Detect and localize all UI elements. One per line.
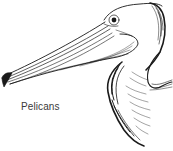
pouch bbox=[10, 34, 138, 84]
pelican-illustration bbox=[0, 0, 173, 151]
caption: Pelicans bbox=[21, 101, 60, 113]
neck-back bbox=[148, 52, 173, 88]
beak-tip bbox=[2, 73, 12, 87]
head-outline bbox=[104, 3, 162, 20]
eye bbox=[112, 18, 117, 23]
crest-feathers bbox=[146, 3, 165, 70]
illustration-canvas: Pelicans bbox=[0, 0, 173, 151]
